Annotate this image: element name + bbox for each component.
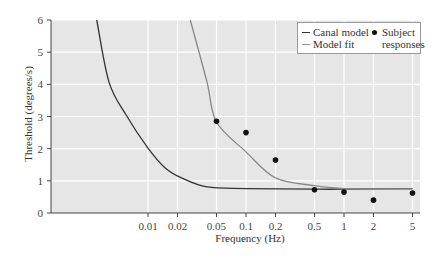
svg-text:0.05: 0.05 <box>207 220 227 232</box>
svg-text:0.01: 0.01 <box>138 220 157 232</box>
legend-item-subject-responses-cont: responses <box>382 38 425 50</box>
svg-text:0.5: 0.5 <box>308 220 322 232</box>
legend-item-canal-model: Canal model <box>302 26 369 38</box>
legend-label: responses <box>382 38 425 50</box>
svg-text:0.02: 0.02 <box>168 220 187 232</box>
svg-text:5: 5 <box>38 46 44 58</box>
svg-text:0.1: 0.1 <box>239 220 253 232</box>
svg-text:6: 6 <box>38 14 44 26</box>
line-swatch-icon <box>302 44 310 45</box>
svg-text:0.2: 0.2 <box>269 220 283 232</box>
svg-text:3: 3 <box>38 111 44 123</box>
svg-text:0: 0 <box>38 207 44 219</box>
legend-label: Canal model <box>313 26 369 38</box>
legend-item-model-fit: Model fit <box>302 38 354 50</box>
svg-text:2: 2 <box>38 143 44 155</box>
svg-text:1: 1 <box>341 220 347 232</box>
dot-marker-icon <box>372 30 377 35</box>
line-swatch-icon <box>302 32 310 33</box>
legend-label: Model fit <box>313 38 354 50</box>
legend-item-subject-responses: Subject <box>372 26 415 38</box>
legend: Canal model Model fit Subject responses <box>297 22 421 54</box>
svg-text:5: 5 <box>410 220 416 232</box>
legend-label: Subject <box>382 26 415 38</box>
svg-text:4: 4 <box>38 78 44 90</box>
x-axis-label: Frequency (Hz) <box>190 232 310 244</box>
svg-text:1: 1 <box>38 175 44 187</box>
svg-text:2: 2 <box>371 220 377 232</box>
y-axis-label: Threshold (degrees/s) <box>22 54 34 174</box>
